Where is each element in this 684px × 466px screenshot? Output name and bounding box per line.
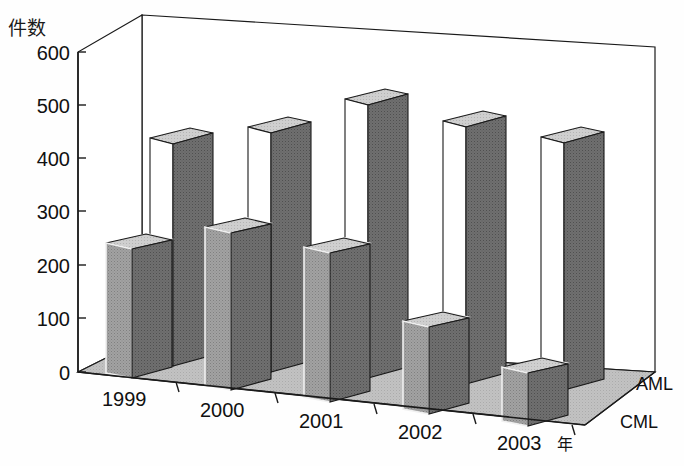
bar-front-face xyxy=(304,247,330,402)
x-tick-2003 xyxy=(572,425,575,435)
bar-front-face xyxy=(106,243,132,378)
chart-container: 600 500 400 300 200 100 0 件数 xyxy=(0,0,684,466)
y-tick-label-400: 400 xyxy=(37,148,70,170)
y-tick-label-600: 600 xyxy=(37,42,70,64)
bar-cml-2000[interactable] xyxy=(203,217,273,390)
y-tick-label-500: 500 xyxy=(37,95,70,117)
y-tick-label-0: 0 xyxy=(59,362,70,384)
series-label-cml: CML xyxy=(620,412,658,432)
bar-side-face xyxy=(466,116,506,384)
bar-front-face xyxy=(205,227,231,390)
bar-front-face xyxy=(541,137,564,390)
y-tick-label-300: 300 xyxy=(37,201,70,223)
y-axis-caption: 件数 xyxy=(8,18,46,39)
y-tick-label-200: 200 xyxy=(37,255,70,277)
bar-cml-2003[interactable] xyxy=(500,357,570,426)
bar-side-face xyxy=(132,240,172,378)
x-tick-2001 xyxy=(374,404,377,414)
bar-side-face xyxy=(231,224,271,390)
bar-side-face xyxy=(368,94,408,378)
x-label-2003: 2003 xyxy=(497,432,542,454)
x-tick-1999 xyxy=(176,382,179,392)
bar-side-face xyxy=(528,364,568,426)
bar-side-face xyxy=(429,318,469,414)
x-label-2002: 2002 xyxy=(398,421,443,443)
bar-front-face xyxy=(403,321,429,414)
three-d-bar-chart: 600 500 400 300 200 100 0 件数 xyxy=(0,0,684,466)
bar-cml-1999[interactable] xyxy=(104,233,174,378)
x-axis-unit: 年 xyxy=(557,436,573,453)
x-label-2000: 2000 xyxy=(200,399,245,421)
x-label-1999: 1999 xyxy=(102,388,147,410)
x-tick-2002 xyxy=(473,414,476,424)
bar-side-face xyxy=(330,244,370,402)
bar-side-face xyxy=(564,132,604,390)
bar-aml-2003[interactable] xyxy=(541,127,604,390)
series-label-aml: AML xyxy=(636,374,673,394)
y-tick-label-100: 100 xyxy=(37,308,70,330)
bar-cml-2002[interactable] xyxy=(401,311,471,414)
bar-cml-2001[interactable] xyxy=(302,237,372,402)
x-tick-2000 xyxy=(275,393,278,403)
y-axis: 600 500 400 300 200 100 0 件数 xyxy=(8,18,86,384)
x-label-2001: 2001 xyxy=(299,410,344,432)
